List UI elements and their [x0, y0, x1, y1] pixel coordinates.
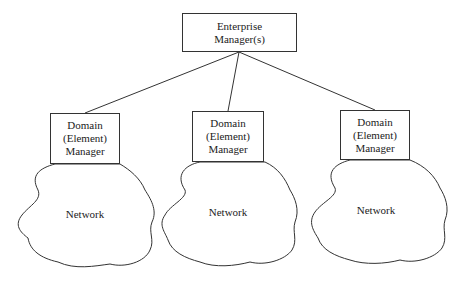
domain-line1: Domain: [357, 116, 392, 129]
domain-manager-box-middle: Domain (Element) Manager: [192, 111, 264, 162]
domain-manager-box-right: Domain (Element) Manager: [340, 110, 410, 160]
enterprise-line2: Manager(s): [214, 33, 265, 46]
enterprise-line1: Enterprise: [217, 20, 262, 33]
domain-line3: Manager: [355, 142, 394, 155]
connector-right: [239, 52, 375, 110]
domain-line1: Domain: [210, 117, 245, 130]
domain-line3: Manager: [208, 143, 247, 156]
domain-line2: (Element): [353, 129, 397, 142]
connector-middle: [228, 52, 239, 111]
domain-line1: Domain: [67, 119, 102, 132]
network-label-middle: Network: [178, 206, 278, 218]
network-label-left: Network: [35, 208, 135, 220]
domain-line2: (Element): [206, 130, 250, 143]
domain-manager-box-left: Domain (Element) Manager: [50, 113, 120, 164]
enterprise-manager-box: Enterprise Manager(s): [182, 13, 297, 52]
domain-line2: (Element): [63, 132, 107, 145]
domain-line3: Manager: [65, 145, 104, 158]
network-label-right: Network: [326, 204, 426, 216]
connector-left: [85, 52, 239, 113]
